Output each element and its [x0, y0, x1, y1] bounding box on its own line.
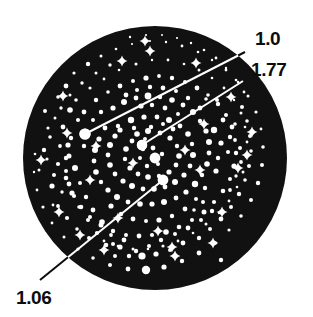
- star: [174, 89, 178, 93]
- star: [106, 153, 111, 158]
- star: [160, 152, 164, 156]
- star: [46, 126, 49, 129]
- star: [103, 240, 106, 243]
- star: [67, 107, 73, 113]
- star: [215, 57, 218, 60]
- star: [228, 200, 231, 203]
- star: [64, 176, 69, 181]
- star: [145, 164, 149, 168]
- star: [82, 110, 87, 115]
- star: [176, 153, 182, 159]
- star: [141, 187, 146, 192]
- star: [130, 139, 135, 144]
- star: [151, 146, 156, 151]
- star: [177, 240, 180, 243]
- star: [208, 227, 212, 231]
- star: [173, 232, 177, 236]
- star: [177, 225, 182, 230]
- star: [93, 169, 99, 175]
- star: [181, 45, 184, 48]
- star: [143, 75, 148, 80]
- star: [181, 241, 186, 246]
- star: [190, 218, 194, 222]
- star: [180, 259, 184, 263]
- star: [211, 59, 213, 61]
- star: [78, 181, 82, 185]
- star: [219, 258, 223, 262]
- star: [124, 93, 129, 98]
- star: [198, 69, 201, 72]
- star: [56, 162, 60, 166]
- star: [95, 72, 98, 75]
- star: [107, 142, 113, 148]
- star: [159, 238, 163, 242]
- star: [190, 152, 196, 158]
- star: [161, 264, 166, 269]
- star: [221, 189, 226, 194]
- star: [218, 140, 223, 145]
- star: [183, 207, 188, 212]
- star: [108, 203, 113, 208]
- star: [203, 186, 207, 190]
- star: [149, 201, 154, 206]
- star: [197, 251, 202, 256]
- star: [261, 145, 265, 149]
- star: [237, 192, 241, 196]
- star: [99, 223, 104, 228]
- star: [243, 178, 247, 182]
- star: [194, 197, 198, 201]
- star: [145, 93, 152, 100]
- star: [94, 98, 98, 102]
- star: [126, 200, 131, 205]
- star: [244, 126, 247, 129]
- star: [58, 144, 62, 148]
- star: [33, 171, 35, 173]
- star: [137, 201, 143, 207]
- star: [176, 37, 178, 39]
- star: [163, 229, 169, 235]
- star: [118, 69, 121, 72]
- star: [126, 267, 131, 272]
- star: [190, 142, 194, 146]
- star: [211, 127, 217, 133]
- star: [127, 165, 132, 170]
- star: [60, 190, 63, 193]
- star: [240, 112, 243, 115]
- star: [172, 179, 178, 185]
- star: [205, 223, 208, 226]
- star: [149, 125, 153, 129]
- star: [120, 178, 125, 183]
- star: [76, 118, 80, 122]
- star: [34, 153, 37, 156]
- star: [131, 43, 133, 45]
- star: [38, 169, 41, 172]
- star: [185, 131, 191, 137]
- star: [82, 144, 86, 148]
- marked-star-1-77: [137, 140, 147, 150]
- star: [228, 135, 232, 139]
- star: [54, 117, 57, 120]
- star: [75, 227, 79, 231]
- star: [186, 96, 190, 100]
- marked-star-1-0: [79, 128, 90, 139]
- star: [151, 59, 153, 61]
- star: [233, 122, 237, 126]
- star: [213, 168, 218, 173]
- star: [132, 126, 136, 130]
- star: [109, 233, 113, 237]
- star: [239, 160, 243, 164]
- star: [239, 214, 243, 218]
- star: [161, 122, 165, 126]
- star: [127, 254, 131, 258]
- star: [64, 156, 68, 160]
- star: [225, 67, 227, 69]
- star: [216, 102, 220, 106]
- star: [52, 204, 55, 207]
- star: [137, 234, 142, 239]
- star: [108, 63, 111, 66]
- star: [249, 149, 253, 153]
- star: [91, 208, 96, 213]
- star: [167, 59, 170, 62]
- star: [124, 233, 128, 237]
- star: [170, 76, 174, 80]
